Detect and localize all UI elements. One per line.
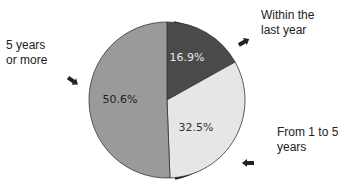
- slice-category-label: or more: [6, 53, 48, 67]
- arrow-icon: [237, 36, 251, 49]
- slice-category-label: years: [277, 140, 306, 154]
- arrow-shape: [237, 36, 251, 49]
- slice-category-label: 5 years: [6, 38, 45, 52]
- slice-category-label: last year: [261, 23, 306, 37]
- slice-category-label: From 1 to 5: [277, 125, 339, 139]
- slice-category-label: Within the: [261, 8, 315, 22]
- arrow-shape: [242, 159, 254, 167]
- slice-value-label: 16.9%: [170, 51, 205, 64]
- pie-chart: 16.9%32.5%50.6%Within thelast yearFrom 1…: [0, 0, 340, 184]
- slice-value-label: 50.6%: [103, 93, 138, 106]
- slice-value-label: 32.5%: [179, 121, 214, 134]
- arrow-icon: [242, 159, 254, 167]
- arrow-icon: [66, 74, 80, 87]
- arrow-shape: [66, 74, 80, 87]
